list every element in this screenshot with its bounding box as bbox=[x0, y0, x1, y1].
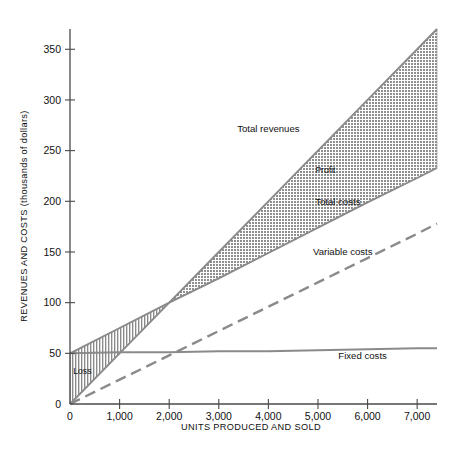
annotation-loss: Loss bbox=[73, 366, 91, 376]
x-tick-label: 5,000 bbox=[305, 410, 331, 422]
annotation-total-costs: Total costs bbox=[315, 196, 361, 207]
annotation-total-revenues: Total revenues bbox=[237, 123, 300, 134]
x-tick-label: 1,000 bbox=[106, 410, 132, 422]
annotation-variable-costs: Variable costs bbox=[313, 246, 373, 257]
y-tick-label: 150 bbox=[43, 246, 61, 258]
x-tick-label: 2,000 bbox=[156, 410, 182, 422]
break-even-chart: 05010015020025030035001,0002,0003,0004,0… bbox=[0, 0, 466, 454]
x-axis-title: UNITS PRODUCED AND SOLD bbox=[181, 422, 321, 432]
y-tick-label: 300 bbox=[43, 94, 61, 106]
y-tick-label: 0 bbox=[55, 398, 61, 410]
annotation-profit: Profit bbox=[315, 165, 336, 175]
y-tick-label: 50 bbox=[49, 347, 61, 359]
x-tick-label: 4,000 bbox=[255, 410, 281, 422]
y-tick-label: 200 bbox=[43, 195, 61, 207]
y-tick-label: 350 bbox=[43, 43, 61, 55]
annotation-fixed-costs: Fixed costs bbox=[338, 350, 387, 361]
x-tick-label: 7,000 bbox=[404, 410, 430, 422]
chart-canvas: 05010015020025030035001,0002,0003,0004,0… bbox=[0, 0, 466, 454]
x-tick-label: 6,000 bbox=[354, 410, 380, 422]
y-axis-title: REVENUES AND COSTS (thousands of dollars… bbox=[19, 110, 29, 321]
x-tick-label: 0 bbox=[67, 410, 73, 422]
y-tick-label: 100 bbox=[43, 296, 61, 308]
x-tick-label: 3,000 bbox=[206, 410, 232, 422]
y-tick-label: 250 bbox=[43, 144, 61, 156]
